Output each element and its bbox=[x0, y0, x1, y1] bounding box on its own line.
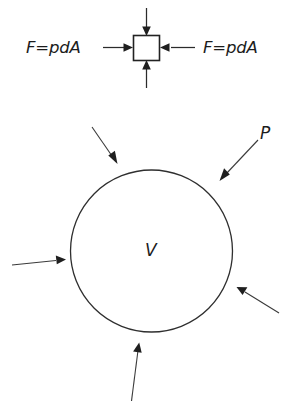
spherical-volume-group: V P bbox=[12, 123, 279, 401]
element-arrow-bottom bbox=[142, 60, 151, 88]
volume-arrow-left bbox=[12, 256, 66, 265]
volume-arrow-bottom-right bbox=[237, 287, 280, 313]
diagram-root: F=pdA F=pdA bbox=[0, 0, 293, 411]
element-arrow-top bbox=[142, 8, 151, 36]
right-force-label: F=pdA bbox=[203, 38, 258, 57]
left-force-label: F=pdA bbox=[26, 38, 81, 57]
volume-arrow-top-left bbox=[92, 127, 118, 164]
volume-arrow-bottom bbox=[132, 343, 142, 402]
pressure-label: P bbox=[260, 123, 271, 143]
element-arrow-left bbox=[103, 43, 133, 52]
element-arrow-right bbox=[160, 43, 195, 52]
pressure-force-figure: F=pdA F=pdA bbox=[0, 0, 293, 411]
volume-arrow-top-right bbox=[220, 140, 259, 181]
element-square bbox=[134, 36, 160, 61]
volume-label: V bbox=[145, 240, 158, 260]
differential-element-group: F=pdA F=pdA bbox=[26, 8, 258, 88]
